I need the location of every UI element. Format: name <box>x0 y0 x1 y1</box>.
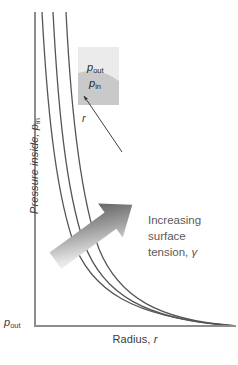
arrow-shape <box>43 188 145 278</box>
inset-p-in-subscript: in <box>95 82 101 91</box>
increasing-surface-tension-arrow <box>0 0 238 365</box>
annotation-line-2: surface <box>148 228 201 244</box>
annotation-line-3: tension, γ <box>148 244 201 260</box>
inset-label-p-out: pout <box>87 61 104 73</box>
inset-p-out-subscript: out <box>93 66 103 75</box>
annotation-line-3-text: tension, <box>148 246 191 258</box>
increasing-surface-tension-label: Increasing surface tension, γ <box>148 212 201 260</box>
gamma-symbol: γ <box>191 246 197 258</box>
annotation-line-1: Increasing <box>148 212 201 228</box>
inset-label-p-in: pin <box>89 77 101 89</box>
pressure-vs-radius-figure: Pressure inside, pin Radius, r pout pout… <box>0 0 238 365</box>
